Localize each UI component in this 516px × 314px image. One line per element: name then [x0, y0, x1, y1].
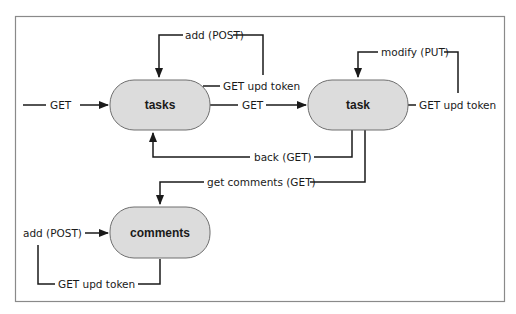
- edge-label-task-back-get: back (GET): [254, 151, 312, 163]
- edge-label-tasks-to-task-get: GET: [242, 99, 264, 111]
- node-task-label: task: [346, 98, 370, 112]
- node-tasks-label: tasks: [145, 98, 176, 112]
- edge-task-get-upd-token: GET upd token: [408, 99, 496, 111]
- node-comments: comments: [110, 207, 210, 258]
- edge-label-task-modify-put: modify (PUT): [381, 46, 449, 58]
- edge-label-tasks-add-post: add (POST): [185, 29, 244, 41]
- edge-label-entry-get: GET: [50, 99, 72, 111]
- edge-label-tasks-get-upd-token: GET upd token: [223, 80, 300, 92]
- edge-label-task-get-upd-token: GET upd token: [419, 99, 496, 111]
- edge-label-comments-get-upd-token: GET upd token: [58, 278, 135, 290]
- rest-state-diagram: GET add (POST) GET upd token GET modify …: [0, 0, 516, 314]
- node-task: task: [308, 80, 408, 130]
- node-comments-label: comments: [130, 226, 190, 240]
- edge-label-comments-add-post: add (POST): [23, 227, 82, 239]
- edge-label-task-get-comments: get comments (GET): [207, 176, 316, 188]
- node-tasks: tasks: [110, 80, 210, 130]
